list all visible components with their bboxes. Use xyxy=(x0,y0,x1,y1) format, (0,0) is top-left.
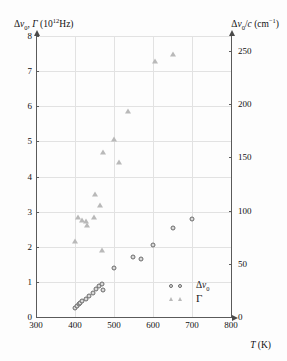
y-axis-right-tick-label: 150 xyxy=(238,153,252,162)
legend-swatch-triangles xyxy=(169,297,193,301)
gridline-horizontal xyxy=(36,247,232,248)
gridline-horizontal xyxy=(36,106,232,107)
circle-marker-icon xyxy=(178,284,182,288)
x-axis-tick-label: 700 xyxy=(185,321,199,330)
y-axis-left-tick-mark xyxy=(36,141,39,142)
y-axis-left-tick-mark xyxy=(36,106,39,107)
data-point-circle xyxy=(170,226,175,231)
scatter-chart-figure: Δν0, Γ (1012Hz) Δν0/c (cm−1) T (K) 87654… xyxy=(0,0,287,361)
left-axis-title: Δν0, Γ (1012Hz) xyxy=(14,20,74,30)
legend-subscript: 0 xyxy=(206,285,209,292)
plot-area: 876543210 250200150100500 30040050060070… xyxy=(36,36,232,318)
legend-label-gamma: Γ xyxy=(193,293,202,304)
y-axis-right-tick-mark xyxy=(229,104,232,105)
data-point-triangle xyxy=(91,214,97,219)
data-point-triangle xyxy=(72,238,78,243)
data-point-triangle xyxy=(152,58,158,63)
y-axis-left-tick-mark xyxy=(36,36,39,37)
data-point-triangle xyxy=(92,191,98,196)
chart-legend: Δν0 Γ xyxy=(169,279,210,305)
y-axis-left-tick-label: 8 xyxy=(28,32,33,41)
x-axis-tick-label: 600 xyxy=(146,321,160,330)
gridline-horizontal xyxy=(36,177,232,178)
y-axis-left-tick-label: 7 xyxy=(28,67,33,76)
x-axis-tick-label: 400 xyxy=(68,321,82,330)
x-axis-tick-label: 300 xyxy=(29,321,43,330)
y-axis-left-tick-mark xyxy=(36,317,39,318)
y-axis-left-tick-mark xyxy=(36,212,39,213)
data-point-circle xyxy=(100,281,105,286)
y-axis-left-tick-label: 2 xyxy=(28,242,33,251)
right-axis-title: Δν0/c (cm−1) xyxy=(231,20,279,30)
legend-item-gamma: Γ xyxy=(169,292,210,305)
data-point-triangle xyxy=(125,109,131,114)
data-point-triangle xyxy=(99,247,105,252)
y-axis-right-arrow-icon xyxy=(229,30,235,36)
y-axis-right-tick-mark xyxy=(229,157,232,158)
triangle-marker-icon xyxy=(169,297,173,301)
y-axis-right-tick-label: 50 xyxy=(238,259,247,268)
y-axis-right-tick-label: 250 xyxy=(238,46,252,55)
data-point-circle xyxy=(131,254,136,259)
y-axis-left-tick-label: 3 xyxy=(28,207,33,216)
gridline-horizontal xyxy=(36,141,232,142)
y-axis-right-tick-mark xyxy=(229,264,232,265)
right-axis-title-unit-open: (cm xyxy=(252,19,269,29)
gridline-horizontal xyxy=(36,212,232,213)
legend-label-delta-nu0: Δν0 xyxy=(193,281,210,291)
y-axis-left-tick-label: 5 xyxy=(28,137,33,146)
y-axis-right-tick-label: 100 xyxy=(238,206,252,215)
y-axis-left-tick-label: 4 xyxy=(28,172,33,181)
right-axis-title-exponent: −1 xyxy=(269,17,276,24)
gridline-horizontal xyxy=(36,71,232,72)
data-point-triangle xyxy=(100,149,106,154)
x-axis-tick-label: 800 xyxy=(224,321,238,330)
right-axis-title-unit-close: ) xyxy=(276,19,279,29)
y-axis-right-tick-mark xyxy=(229,51,232,52)
data-point-triangle xyxy=(170,51,176,56)
left-axis-title-unit-close: Hz) xyxy=(59,19,73,29)
y-axis-left-tick-mark xyxy=(36,282,39,283)
x-axis-tick-label: 500 xyxy=(107,321,121,330)
x-axis-title-unit: (K) xyxy=(255,340,271,350)
data-point-triangle xyxy=(111,137,117,142)
data-point-triangle xyxy=(116,160,122,165)
y-axis-right-tick-label: 200 xyxy=(238,100,252,109)
y-axis-right-tick-mark xyxy=(229,211,232,212)
data-point-triangle xyxy=(97,203,103,208)
x-axis-line xyxy=(36,317,232,318)
circle-marker-icon xyxy=(169,284,173,288)
y-axis-right-tick-label: 0 xyxy=(238,313,243,322)
y-axis-left-tick-label: 1 xyxy=(28,277,33,286)
data-point-circle xyxy=(190,216,195,221)
legend-item-delta-nu0: Δν0 xyxy=(169,279,210,292)
y-axis-left-tick-mark xyxy=(36,177,39,178)
y-axis-left-tick-label: 6 xyxy=(28,102,33,111)
left-axis-title-unit-open: (10 xyxy=(38,19,53,29)
x-axis-title: T (K) xyxy=(250,341,271,351)
y-axis-left-tick-mark xyxy=(36,247,39,248)
y-axis-left-tick-mark xyxy=(36,71,39,72)
data-point-triangle xyxy=(84,222,90,227)
triangle-marker-icon xyxy=(178,297,182,301)
data-point-circle xyxy=(112,265,117,270)
data-point-circle xyxy=(101,288,106,293)
y-axis-right-tick-mark xyxy=(229,317,232,318)
y-axis-right-line xyxy=(231,36,232,318)
data-point-circle xyxy=(139,257,144,262)
gridline-horizontal xyxy=(36,36,232,37)
legend-swatch-circles xyxy=(169,284,193,288)
data-point-circle xyxy=(151,242,156,247)
